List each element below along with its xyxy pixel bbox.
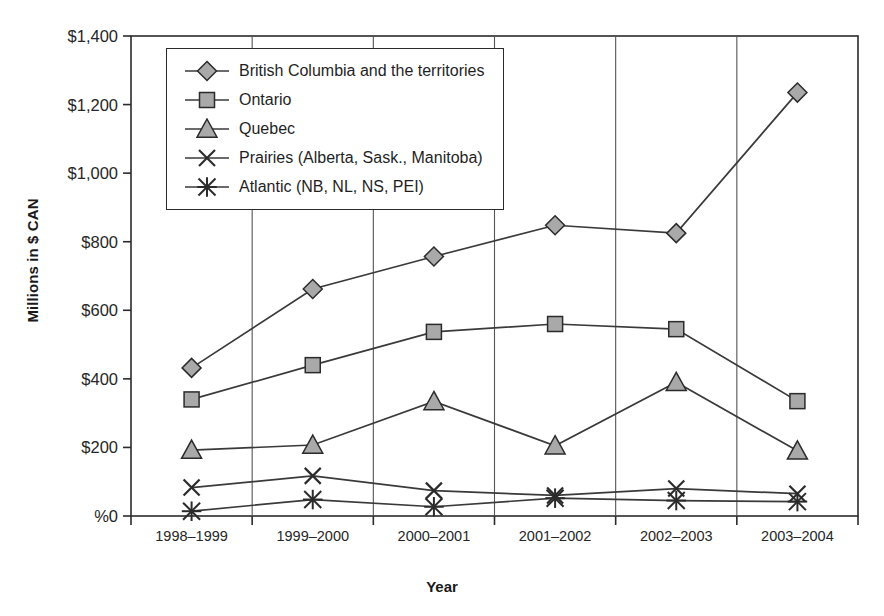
x-axis-tick-labels: 1998–19991999–20002000–20012001–20022002… xyxy=(0,528,884,558)
x-axis-tick-label: 1998–1999 xyxy=(155,528,228,544)
x-axis-tick-label: 2003–2004 xyxy=(761,528,834,544)
asterisk-marker-icon xyxy=(424,497,444,517)
legend-item-label: British Columbia and the territories xyxy=(239,62,484,80)
square-marker-icon xyxy=(426,324,441,339)
asterisk-marker-icon xyxy=(197,177,217,197)
line-chart: Millions in $ CAN %0$200$400$600$800$1,0… xyxy=(0,0,884,616)
legend-item[interactable]: Ontario xyxy=(167,85,503,114)
x-axis-tick-label: 2001–2002 xyxy=(519,528,592,544)
asterisk-marker-icon xyxy=(788,492,808,512)
asterisk-marker-icon xyxy=(182,501,202,521)
legend-item-label: Atlantic (NB, NL, NS, PEI) xyxy=(239,178,424,196)
asterisk-marker-icon xyxy=(303,490,323,510)
legend-item-label: Quebec xyxy=(239,120,295,138)
legend-item-label: Ontario xyxy=(239,91,291,109)
square-marker-icon xyxy=(184,392,199,407)
triangle-marker-icon xyxy=(184,118,230,140)
legend-item[interactable]: Prairies (Alberta, Sask., Manitoba) xyxy=(167,143,503,172)
legend-item[interactable]: British Columbia and the territories xyxy=(167,56,503,85)
square-marker-icon xyxy=(548,317,563,332)
square-marker-icon xyxy=(669,322,684,337)
asterisk-marker-icon xyxy=(184,176,230,198)
diamond-marker-icon xyxy=(184,60,230,82)
x-axis-tick-label: 2000–2001 xyxy=(398,528,471,544)
square-marker-icon xyxy=(200,92,215,107)
asterisk-marker-icon xyxy=(545,488,565,508)
x-axis-title: Year xyxy=(0,578,884,595)
x-axis-tick-label: 1999–2000 xyxy=(276,528,349,544)
legend-item[interactable]: Atlantic (NB, NL, NS, PEI) xyxy=(167,172,503,201)
square-marker-icon xyxy=(184,89,230,111)
square-marker-icon xyxy=(790,394,805,409)
legend-item-label: Prairies (Alberta, Sask., Manitoba) xyxy=(239,149,483,167)
triangle-marker-icon xyxy=(197,119,217,137)
cross-marker-icon xyxy=(184,147,230,169)
diamond-marker-icon xyxy=(198,61,217,80)
chart-legend: British Columbia and the territoriesOnta… xyxy=(166,48,504,210)
x-axis-tick-label: 2002–2003 xyxy=(640,528,713,544)
asterisk-marker-icon xyxy=(666,491,686,511)
square-marker-icon xyxy=(305,358,320,373)
legend-item[interactable]: Quebec xyxy=(167,114,503,143)
